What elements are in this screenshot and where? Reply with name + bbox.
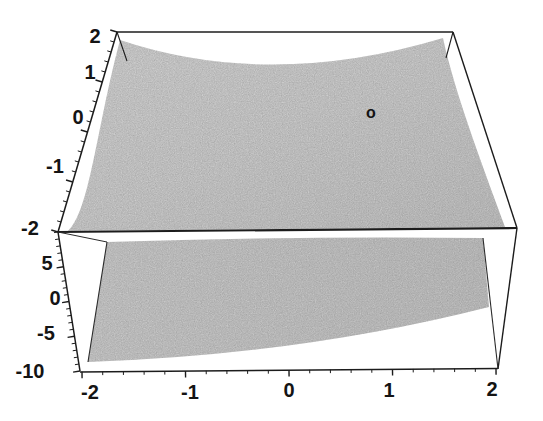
y-axis-tick-label: 0: [72, 106, 83, 128]
x-axis-tick-label: -2: [81, 381, 99, 403]
z-axis-tick-label: 5: [41, 252, 52, 274]
y-axis-tick-label: -2: [21, 217, 39, 239]
z-axis-minor-tick: [61, 274, 65, 275]
x-axis-tick-label: 1: [383, 379, 394, 401]
surface-plot-figure: 210-1-250-5-10-2-1012 o: [0, 0, 543, 421]
surface-point-marker: o: [366, 104, 376, 121]
z-axis-tick-label: -10: [16, 360, 45, 382]
z-axis-minor-tick: [56, 246, 60, 247]
x-axis-tick-label: 2: [486, 378, 497, 400]
z-axis-minor-tick: [74, 357, 78, 358]
z-axis-minor-tick: [55, 239, 59, 240]
z-axis-minor-tick: [57, 253, 61, 254]
z-axis-tick-label: -5: [37, 322, 55, 344]
z-axis-minor-tick: [72, 343, 76, 344]
z-axis-minor-tick: [63, 288, 67, 289]
y-axis-tick-label: 2: [89, 25, 100, 47]
y-axis-tick-label: -1: [46, 155, 64, 177]
z-axis-minor-tick: [66, 308, 70, 309]
x-axis-tick-label: -1: [181, 381, 199, 403]
z-axis-minor-tick: [68, 322, 72, 323]
z-axis-minor-tick: [62, 281, 66, 282]
z-axis-minor-tick: [75, 364, 79, 365]
y-axis-tick-label: 1: [84, 61, 95, 83]
3d-surface-plot: 210-1-250-5-10-2-1012 o: [0, 0, 543, 421]
z-axis-minor-tick: [69, 329, 73, 330]
z-axis-minor-tick: [64, 295, 68, 296]
z-axis-minor-tick: [73, 350, 77, 351]
z-axis-minor-tick: [58, 260, 62, 261]
z-axis-tick-label: 0: [49, 287, 60, 309]
z-axis-minor-tick: [67, 315, 71, 316]
x-axis-tick-label: 0: [283, 379, 294, 401]
z-axis-minor-tick: [54, 232, 58, 233]
